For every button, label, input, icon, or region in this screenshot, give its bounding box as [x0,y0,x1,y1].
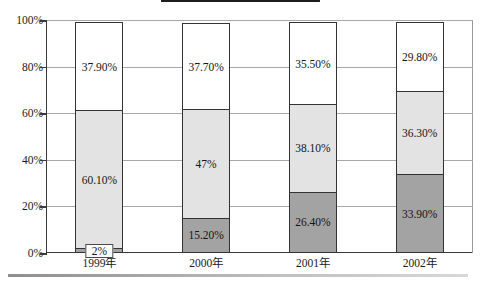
y-tick-label: 20% [3,200,43,212]
x-tick-label: 1999年 [54,256,144,270]
bar-segment-light-gray-segment[interactable]: 60.10% [75,110,123,250]
y-tick-mark [40,67,47,69]
bar-segment-label: 60.10% [82,174,117,186]
bar-segment-light-gray-segment[interactable]: 38.10% [289,104,337,193]
bar-segment-light-gray-segment[interactable]: 36.30% [396,91,444,176]
y-tick-label: 0% [3,247,43,259]
y-tick-mark [40,253,47,255]
y-tick-label: 60% [3,107,43,119]
bottom-divider [8,274,468,277]
bar-2001年[interactable]: 35.50%38.10%26.40% [289,22,337,253]
bar-segment-label: 37.90% [82,61,117,73]
bar-segment-light-gray-segment[interactable]: 47% [182,109,230,219]
chart-page: 0%20%40%60%80%100% 37.90%60.10%2%37.70%4… [0,0,482,285]
y-axis: 0%20%40%60%80%100% [0,20,43,253]
x-tick-label: 2001年 [268,256,358,270]
bar-segment-label: 2% [86,244,113,258]
bar-segment-white-segment[interactable]: 37.90% [75,22,123,110]
bar-segment-dark-gray-segment[interactable]: 2% [75,248,123,253]
y-tick-label: 100% [3,14,43,26]
x-tick-label: 2002年 [375,256,465,270]
bar-segment-label: 33.90% [402,208,437,220]
y-tick-mark [40,206,47,208]
y-tick-mark [40,160,47,162]
bar-2000年[interactable]: 37.70%47%15.20% [182,23,230,253]
x-axis: 1999年2000年2001年2002年 [46,256,473,276]
bar-group: 37.90%60.10%2%37.70%47%15.20%35.50%38.10… [46,20,473,253]
y-tick-label: 40% [3,154,43,166]
bar-1999年[interactable]: 37.90%60.10%2% [75,22,123,253]
y-tick-mark [40,20,47,22]
bar-segment-label: 35.50% [295,58,330,70]
y-tick-mark [40,113,47,115]
bar-segment-dark-gray-segment[interactable]: 26.40% [289,192,337,254]
bar-2002年[interactable]: 29.80%36.30%33.90% [396,22,444,253]
y-tick-label: 80% [3,61,43,73]
bar-segment-dark-gray-segment[interactable]: 33.90% [396,174,444,253]
bar-segment-white-segment[interactable]: 37.70% [182,23,230,111]
bar-segment-white-segment[interactable]: 29.80% [396,22,444,91]
bar-segment-label: 15.20% [188,229,223,241]
title-box [161,0,320,2]
bar-segment-label: 38.10% [295,142,330,154]
x-tick-label: 2000年 [161,256,251,270]
bar-segment-label: 36.30% [402,127,437,139]
bar-segment-white-segment[interactable]: 35.50% [289,22,337,105]
bar-segment-label: 47% [196,158,217,170]
bar-segment-label: 37.70% [188,61,223,73]
bar-segment-label: 29.80% [402,51,437,63]
bar-segment-dark-gray-segment[interactable]: 15.20% [182,218,230,253]
bar-segment-label: 26.40% [295,216,330,228]
